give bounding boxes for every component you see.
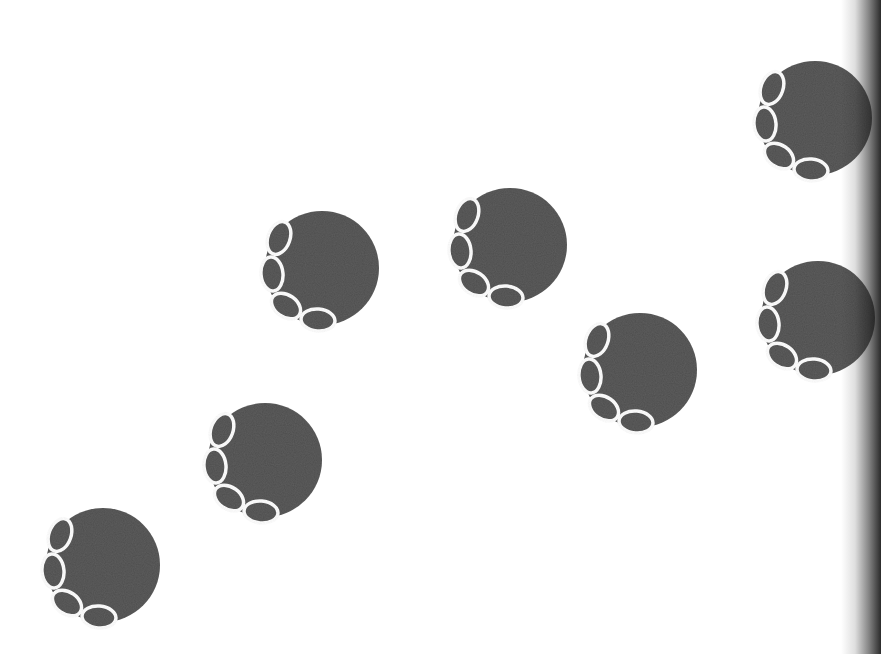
paw-toe (756, 306, 781, 342)
paw-toe (41, 553, 66, 589)
paw-toe (753, 106, 778, 142)
paw-print-icon (260, 211, 379, 332)
paw-toe (260, 256, 285, 292)
paw-toe (578, 358, 603, 394)
paw-toe (448, 233, 473, 269)
paw-toe (488, 285, 524, 310)
paw-print-icon (448, 188, 567, 309)
paw-print-icon (753, 61, 872, 182)
paw-print-icon (756, 261, 875, 382)
paw-print-icon (578, 313, 697, 434)
paw-toe (618, 410, 654, 435)
paw-toe (300, 308, 336, 333)
paw-toe (203, 448, 228, 484)
paw-print-icon (41, 508, 160, 629)
paw-print-trail (0, 0, 881, 654)
paw-toe (796, 358, 832, 383)
paw-toe (81, 605, 117, 630)
prints-layer (41, 61, 875, 629)
paw-print-icon (203, 403, 322, 524)
paw-toe (793, 158, 829, 183)
paw-toe (243, 500, 279, 525)
